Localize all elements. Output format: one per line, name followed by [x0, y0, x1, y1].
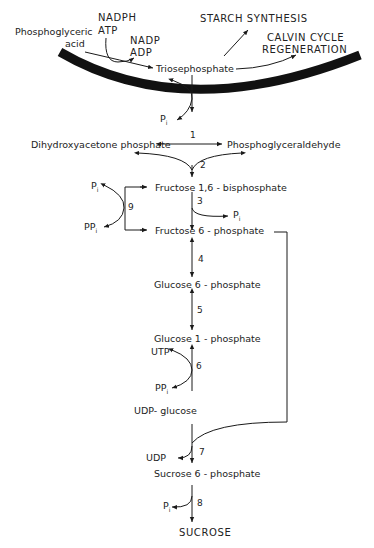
- subscript: i: [166, 119, 168, 126]
- ppi-text: PP: [155, 382, 166, 393]
- label-regeneration: REGENERATION: [262, 45, 347, 55]
- label-phosphoglyceric: Phosphoglyceric: [15, 27, 93, 37]
- subscript: i: [239, 215, 241, 222]
- label-atp: ATP: [98, 26, 118, 36]
- node-glucose-6-phosphate: Glucose 6 - phosphate: [154, 280, 261, 290]
- subscript: i: [166, 388, 168, 395]
- subscript: i: [95, 227, 97, 234]
- label-nadp: NADP: [130, 36, 160, 46]
- node-sucrose: SUCROSE: [179, 528, 231, 538]
- step-4: 4: [198, 255, 204, 264]
- step-2: 2: [200, 161, 206, 170]
- label-nadph: NADPH: [98, 13, 137, 23]
- ppi-text: PP: [84, 221, 95, 232]
- label-utp: UTP: [151, 347, 170, 357]
- label-pi-step8: Pi: [163, 501, 170, 513]
- label-starch-synthesis: STARCH SYNTHESIS: [200, 14, 308, 24]
- step-9: 9: [128, 203, 134, 212]
- node-phosphoglyceraldehyde: Phosphoglyceraldehyde: [227, 140, 341, 150]
- node-fructose-6-phosphate: Fructose 6 - phosphate: [155, 226, 264, 236]
- step-1: 1: [190, 131, 196, 140]
- step-3: 3: [197, 197, 203, 206]
- label-pi-step9: Pi: [91, 181, 98, 193]
- label-adp: ADP: [130, 48, 152, 58]
- subscript: i: [97, 186, 99, 193]
- node-fructose-1-6-bisphosphate: Fructose 1,6 - bisphosphate: [155, 183, 287, 193]
- pathway-lines: [0, 0, 374, 548]
- step-8: 8: [197, 499, 203, 508]
- label-pi-step3: Pi: [233, 210, 240, 222]
- step-6: 6: [196, 362, 202, 371]
- node-udp-glucose: UDP- glucose: [134, 406, 197, 416]
- label-pi-transport: Pi: [160, 114, 167, 126]
- node-glucose-1-phosphate: Glucose 1 - phosphate: [154, 334, 261, 344]
- subscript: i: [169, 506, 171, 513]
- label-ppi-step9: PPi: [84, 222, 97, 234]
- label-calvin-cycle: CALVIN CYCLE: [267, 33, 344, 43]
- label-ppi-step6: PPi: [155, 383, 168, 395]
- label-udp: UDP: [146, 453, 166, 463]
- step-5: 5: [197, 306, 203, 315]
- node-dhap: Dihydroxyacetone phosphate: [31, 140, 171, 150]
- node-sucrose-6-phosphate: Sucrose 6 - phosphate: [154, 469, 260, 479]
- step-7: 7: [199, 448, 205, 457]
- node-triosephosphate: Triosephosphate: [156, 64, 234, 74]
- label-acid: acid: [65, 39, 85, 49]
